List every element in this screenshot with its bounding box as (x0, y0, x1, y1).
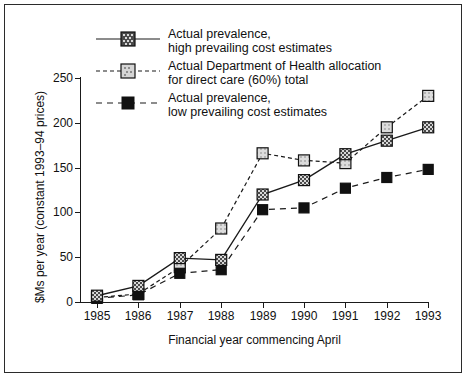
data-point-marker (299, 175, 310, 186)
x-axis-title: Financial year commencing April (80, 333, 429, 347)
data-point-marker (299, 203, 309, 213)
data-point-marker (340, 149, 351, 160)
data-point-marker (381, 135, 392, 146)
plot-area: 050100150200250 198519861987198819891990… (0, 0, 468, 388)
data-point-marker (423, 164, 433, 174)
legend-item-high[interactable]: Actual prevalence, high prevailing cost … (96, 30, 396, 59)
data-point-marker (216, 223, 227, 234)
data-point-marker (382, 173, 392, 183)
data-point-marker (174, 253, 185, 264)
legend-label-low: Actual prevalence, low prevailing cost e… (168, 91, 327, 119)
legend-swatch-high (96, 30, 160, 48)
data-point-marker (175, 268, 185, 278)
legend-swatch-allocation (96, 62, 160, 80)
data-point-marker (423, 122, 434, 133)
legend-item-allocation[interactable]: Actual Department of Health allocation f… (96, 62, 396, 91)
data-point-marker (423, 90, 434, 101)
data-point-marker (133, 280, 144, 291)
legend-swatch-low (96, 94, 160, 112)
chart-legend: Actual prevalence, high prevailing cost … (96, 30, 396, 126)
legend-label-allocation-line1: Actual Department of Health allocation (168, 59, 381, 73)
data-point-marker (340, 183, 350, 193)
y-axis-title: $Ms per year (constant 1993–94 prices) (33, 72, 47, 322)
legend-item-low[interactable]: Actual prevalence, low prevailing cost e… (96, 94, 396, 123)
data-point-marker (258, 205, 268, 215)
legend-label-low-line1: Actual prevalence, (168, 91, 327, 105)
data-point-marker (216, 265, 226, 275)
data-point-marker (216, 254, 227, 265)
data-point-marker (257, 148, 268, 159)
legend-label-high-line2: high prevailing cost estimates (168, 41, 332, 55)
data-point-marker (299, 155, 310, 166)
legend-label-low-line2: low prevailing cost estimates (168, 105, 327, 119)
legend-label-allocation: Actual Department of Health allocation f… (168, 59, 381, 87)
data-point-marker (257, 189, 268, 200)
legend-label-allocation-line2: for direct care (60%) total (168, 73, 381, 87)
data-point-marker (92, 290, 103, 301)
legend-label-high-line1: Actual prevalence, (168, 27, 332, 41)
legend-label-high: Actual prevalence, high prevailing cost … (168, 27, 332, 55)
chart-figure: 050100150200250 198519861987198819891990… (0, 0, 468, 388)
